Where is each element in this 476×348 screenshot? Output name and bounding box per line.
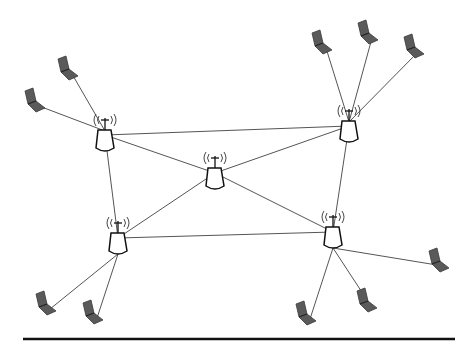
backbone-link	[105, 126, 349, 135]
signal-wave-icon	[326, 213, 328, 221]
access-point-icon	[94, 114, 116, 151]
client-link	[72, 74, 105, 131]
backbone-link	[215, 126, 349, 173]
router-body	[206, 168, 224, 189]
laptop-icon	[58, 56, 78, 80]
signal-wave-icon	[342, 211, 344, 223]
router-body	[340, 121, 358, 142]
laptop-icon	[36, 291, 56, 315]
signal-wave-icon	[342, 107, 344, 115]
router-body	[109, 233, 127, 254]
laptops-layer	[25, 20, 449, 325]
laptop-icon	[429, 248, 449, 272]
backbone-link	[215, 173, 333, 232]
router-body	[324, 227, 342, 248]
signal-wave-icon	[322, 211, 324, 223]
access-point-icon	[107, 217, 129, 254]
signal-wave-icon	[221, 154, 223, 162]
client-link	[39, 106, 105, 131]
laptop-icon	[25, 88, 45, 112]
client-link	[349, 38, 372, 122]
client-link	[97, 254, 118, 318]
signal-wave-icon	[358, 105, 360, 117]
signal-wave-icon	[355, 107, 357, 115]
signal-wave-icon	[208, 154, 210, 162]
signal-wave-icon	[124, 219, 126, 227]
network-diagram	[0, 0, 476, 348]
links-layer	[39, 38, 443, 319]
signal-wave-icon	[338, 105, 340, 117]
client-link	[50, 254, 118, 309]
signal-wave-icon	[127, 217, 129, 229]
laptop-icon	[296, 301, 316, 325]
signal-wave-icon	[204, 152, 206, 164]
signal-wave-icon	[339, 213, 341, 221]
laptop-icon	[357, 288, 377, 312]
laptop-icon	[83, 300, 103, 324]
access-point-icon	[338, 105, 360, 142]
signal-wave-icon	[111, 219, 113, 227]
laptop-icon	[312, 30, 332, 54]
client-link	[349, 52, 418, 122]
laptop-icon	[358, 20, 378, 44]
access-point-icon	[322, 211, 344, 248]
laptop-icon	[404, 34, 424, 58]
signal-wave-icon	[224, 152, 226, 164]
router-body	[96, 130, 114, 151]
signal-wave-icon	[114, 114, 116, 126]
signal-wave-icon	[107, 217, 109, 229]
backbone-link	[105, 135, 215, 173]
signal-wave-icon	[111, 116, 113, 124]
backbone-link	[118, 173, 215, 238]
client-link	[310, 248, 333, 319]
diagram-canvas	[0, 0, 476, 348]
client-link	[333, 248, 443, 266]
backbone-link	[118, 232, 333, 238]
